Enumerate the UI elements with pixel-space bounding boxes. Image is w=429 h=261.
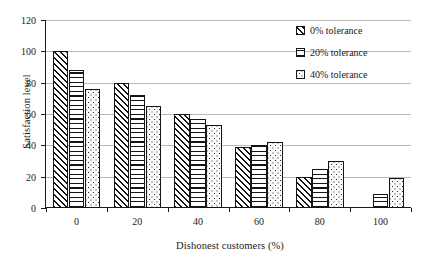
bar-group (114, 20, 162, 208)
x-axis-tick (411, 208, 412, 212)
x-axis-tick-label: 100 (361, 216, 401, 227)
y-axis-tick-label: 80 (6, 77, 36, 88)
y-axis-tick (41, 51, 46, 52)
x-axis-tick-label: 60 (239, 216, 279, 227)
x-axis-tick (107, 208, 108, 212)
bar (130, 95, 146, 208)
legend-swatch-icon (296, 48, 305, 57)
x-axis-tick-label: 80 (300, 216, 340, 227)
bar (328, 161, 344, 208)
bar (296, 177, 312, 208)
y-axis-tick-label: 20 (6, 171, 36, 182)
bar (267, 142, 283, 208)
legend-item-label: 40% tolerance (310, 69, 367, 80)
y-axis-tick (41, 114, 46, 115)
bar-group (235, 20, 283, 208)
legend-swatch-icon (296, 70, 305, 79)
y-axis-tick-label: 100 (6, 46, 36, 57)
bar (85, 89, 101, 208)
bar-chart: Satisfaction level Dishonest customers (… (0, 0, 429, 261)
x-axis-tick-label: 20 (117, 216, 157, 227)
bar (69, 70, 85, 208)
bar (389, 178, 405, 208)
legend-item[interactable]: 0% tolerance (296, 22, 367, 39)
bar (235, 147, 251, 208)
x-axis-tick (289, 208, 290, 212)
legend-item[interactable]: 40% tolerance (296, 66, 367, 83)
bar (53, 51, 69, 208)
y-axis-tick-label: 0 (6, 203, 36, 214)
x-axis-tick (46, 208, 47, 212)
bar (373, 194, 389, 208)
y-axis-tick-label: 120 (6, 15, 36, 26)
x-axis-tick-label: 40 (178, 216, 218, 227)
legend-item[interactable]: 20% tolerance (296, 44, 367, 61)
bar-group (53, 20, 101, 208)
x-axis-tick-label: 0 (56, 216, 96, 227)
y-axis-tick-label: 60 (6, 109, 36, 120)
bar (146, 106, 162, 208)
bar (312, 169, 328, 208)
x-axis-title: Dishonest customers (%) (45, 240, 415, 251)
x-axis-tick (350, 208, 351, 212)
y-axis-tick (41, 145, 46, 146)
bar (251, 145, 267, 208)
y-axis-tick (41, 83, 46, 84)
y-axis-tick (41, 20, 46, 21)
bar (114, 83, 130, 208)
y-axis-tick (41, 177, 46, 178)
bar-group (174, 20, 222, 208)
x-axis-tick (168, 208, 169, 212)
bar (206, 125, 222, 208)
legend-swatch-icon (296, 26, 305, 35)
legend-item-label: 0% tolerance (310, 25, 362, 36)
x-axis-tick (229, 208, 230, 212)
bar (190, 119, 206, 208)
chart-legend: 0% tolerance20% tolerance40% tolerance (296, 22, 367, 88)
bar (174, 114, 190, 208)
y-axis-tick-label: 40 (6, 140, 36, 151)
legend-item-label: 20% tolerance (310, 47, 367, 58)
